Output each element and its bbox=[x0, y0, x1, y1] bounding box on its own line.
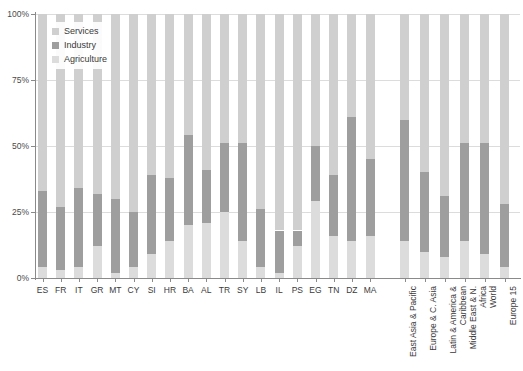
segment-services bbox=[256, 14, 265, 209]
segment-agriculture bbox=[165, 241, 174, 278]
bar-hr bbox=[165, 14, 174, 278]
x-label-europe-15: Europe 15 bbox=[509, 286, 519, 366]
segment-services bbox=[184, 14, 193, 135]
segment-industry bbox=[440, 196, 449, 257]
segment-industry bbox=[500, 204, 509, 267]
x-tick-ps bbox=[297, 279, 298, 282]
segment-industry bbox=[184, 135, 193, 225]
segment-agriculture bbox=[420, 252, 429, 278]
x-tick-ba bbox=[188, 279, 189, 282]
segment-industry bbox=[293, 231, 302, 247]
segment-agriculture bbox=[129, 267, 138, 278]
bar-tr bbox=[220, 14, 229, 278]
segment-agriculture bbox=[347, 241, 356, 278]
segment-services bbox=[347, 14, 356, 117]
bar-east-asia-pacific bbox=[400, 14, 409, 278]
segment-agriculture bbox=[184, 225, 193, 278]
segment-agriculture bbox=[256, 267, 265, 278]
x-tick-mt bbox=[115, 279, 116, 282]
segment-agriculture bbox=[74, 267, 83, 278]
segment-industry bbox=[165, 178, 174, 241]
bar-al bbox=[202, 14, 211, 278]
x-tick-es bbox=[43, 279, 44, 282]
x-tick-tn bbox=[334, 279, 335, 282]
segment-industry bbox=[129, 212, 138, 267]
segment-agriculture bbox=[293, 246, 302, 278]
y-tick-25 bbox=[31, 212, 35, 213]
x-tick-europe-c-asia bbox=[425, 279, 426, 282]
x-tick-fr bbox=[61, 279, 62, 282]
bar-ba bbox=[184, 14, 193, 278]
segment-services bbox=[480, 14, 489, 143]
segment-services bbox=[38, 14, 47, 191]
x-label-world: World bbox=[489, 286, 499, 366]
segment-services bbox=[111, 14, 120, 199]
bar-ps bbox=[293, 14, 302, 278]
segment-services bbox=[400, 14, 409, 120]
y-tick-label-50: 50% bbox=[0, 141, 29, 151]
segment-services bbox=[311, 14, 320, 146]
segment-agriculture bbox=[366, 236, 375, 278]
segment-industry bbox=[366, 159, 375, 236]
legend-label-industry: Industry bbox=[64, 40, 96, 50]
y-tick-0 bbox=[31, 278, 35, 279]
x-tick-al bbox=[206, 279, 207, 282]
legend-swatch-industry bbox=[52, 42, 59, 49]
segment-industry bbox=[347, 117, 356, 241]
segment-services bbox=[275, 14, 284, 230]
bar-world bbox=[480, 14, 489, 278]
segment-industry bbox=[220, 143, 229, 212]
legend-item-industry: Industry bbox=[52, 38, 107, 52]
segment-services bbox=[129, 14, 138, 212]
segment-industry bbox=[480, 143, 489, 254]
segment-services bbox=[202, 14, 211, 170]
segment-agriculture bbox=[56, 270, 65, 278]
x-label-latin-america-caribbean: Latin & America & Caribbean bbox=[449, 286, 468, 366]
legend-item-services: Services bbox=[52, 24, 107, 38]
segment-agriculture bbox=[38, 267, 47, 278]
bar-lb bbox=[256, 14, 265, 278]
stacked-bar-chart: 0%25%50%75%100% Services Industry Agricu… bbox=[0, 0, 523, 371]
x-tick-lb bbox=[261, 279, 262, 282]
segment-agriculture bbox=[311, 201, 320, 278]
segment-agriculture bbox=[147, 254, 156, 278]
y-tick-label-25: 25% bbox=[0, 207, 29, 217]
y-tick-label-100: 100% bbox=[0, 9, 29, 19]
x-tick-eg bbox=[316, 279, 317, 282]
segment-agriculture bbox=[238, 241, 247, 278]
segment-services bbox=[500, 14, 509, 204]
x-label-ma: MA bbox=[355, 285, 385, 295]
legend-label-agriculture: Agriculture bbox=[64, 54, 107, 64]
segment-industry bbox=[147, 175, 156, 254]
bar-europe-15 bbox=[500, 14, 509, 278]
y-tick-75 bbox=[31, 80, 35, 81]
y-tick-50 bbox=[31, 146, 35, 147]
segment-agriculture bbox=[460, 241, 469, 278]
bar-es bbox=[38, 14, 47, 278]
y-tick-label-0: 0% bbox=[0, 273, 29, 283]
segment-industry bbox=[38, 191, 47, 268]
x-axis-line bbox=[35, 278, 521, 279]
legend-swatch-agriculture bbox=[52, 56, 59, 63]
x-tick-middle-east-n-africa bbox=[465, 279, 466, 282]
segment-agriculture bbox=[480, 254, 489, 278]
x-tick-tr bbox=[225, 279, 226, 282]
segment-industry bbox=[202, 170, 211, 223]
y-axis-labels: 0%25%50%75%100% bbox=[0, 0, 30, 371]
chart-legend: Services Industry Agriculture bbox=[50, 22, 111, 69]
legend-item-agriculture: Agriculture bbox=[52, 52, 107, 66]
legend-label-services: Services bbox=[64, 26, 99, 36]
bar-sy bbox=[238, 14, 247, 278]
x-tick-world bbox=[485, 279, 486, 282]
x-tick-europe-15 bbox=[505, 279, 506, 282]
segment-industry bbox=[56, 207, 65, 270]
segment-services bbox=[420, 14, 429, 172]
segment-agriculture bbox=[400, 241, 409, 278]
segment-services bbox=[366, 14, 375, 159]
x-tick-latin-america-caribbean bbox=[445, 279, 446, 282]
segment-services bbox=[329, 14, 338, 175]
segment-industry bbox=[256, 209, 265, 267]
x-tick-east-asia-pacific bbox=[405, 279, 406, 282]
x-tick-sy bbox=[243, 279, 244, 282]
bar-cy bbox=[129, 14, 138, 278]
